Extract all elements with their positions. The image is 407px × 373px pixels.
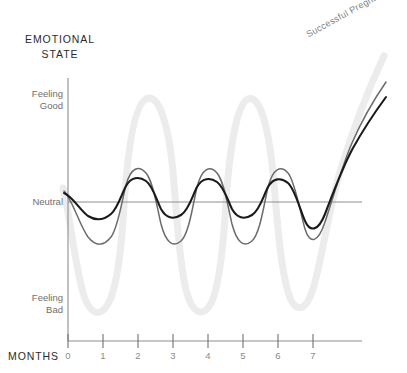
- y-tick-label-feeling-bad: Feeling Bad: [7, 292, 63, 315]
- x-tick-label-6: 6: [271, 350, 285, 361]
- x-tick-label-1: 1: [96, 350, 110, 361]
- x-axis-title: MONTHS: [8, 350, 59, 362]
- y-tick-label-neutral: Neutral: [7, 196, 63, 208]
- y-axis-title-line1: EMOTIONAL: [25, 33, 95, 45]
- y-tick-bad-line1: Feeling: [32, 292, 63, 303]
- x-tick-label-4: 4: [201, 350, 215, 361]
- y-tick-label-feeling-good: Feeling Good: [7, 88, 63, 111]
- x-tick-label-0: 0: [61, 350, 75, 361]
- x-tick-label-2: 2: [131, 350, 145, 361]
- y-axis-title-line2: STATE: [42, 48, 79, 60]
- y-tick-good-line1: Feeling: [32, 88, 63, 99]
- y-axis-title: EMOTIONAL STATE: [8, 32, 112, 62]
- x-tick-label-7: 7: [306, 350, 320, 361]
- chart-page: EMOTIONAL STATE MONTHS Feeling Good Neut…: [0, 0, 407, 373]
- y-tick-bad-line2: Bad: [46, 304, 63, 315]
- x-tick-label-5: 5: [236, 350, 250, 361]
- y-tick-good-line2: Good: [40, 100, 63, 111]
- x-tick-label-3: 3: [166, 350, 180, 361]
